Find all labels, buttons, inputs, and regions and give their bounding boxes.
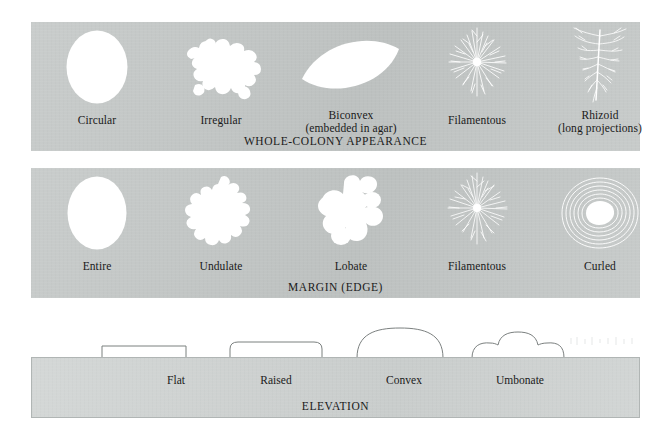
cell-curled: Curled <box>537 168 663 298</box>
shape-convex-profile <box>355 326 445 359</box>
cell-entire: Entire <box>37 168 157 298</box>
caption-rhizoid: Rhizoid (long projections) <box>537 109 663 135</box>
panel-title-margin-edge: MARGIN (EDGE) <box>31 281 640 293</box>
caption-convex: Convex <box>357 374 451 386</box>
panel-title-whole-colony-appearance: WHOLE-COLONY APPEARANCE <box>31 135 640 147</box>
cell-irregular: Irregular <box>161 22 281 151</box>
caption-curled: Curled <box>537 260 663 273</box>
shape-entire <box>37 174 157 252</box>
cell-biconvex: Biconvex (embedded in agar) <box>285 22 417 151</box>
print-artifact <box>568 334 640 348</box>
shape-circular <box>37 28 157 106</box>
caption-circular: Circular <box>37 114 157 127</box>
shape-filamentous <box>417 24 537 106</box>
cell-filamentous-margin: Filamentous <box>417 168 537 298</box>
caption-undulate: Undulate <box>161 260 281 273</box>
shape-filamentous <box>417 170 537 252</box>
caption-biconvex: Biconvex (embedded in agar) <box>285 109 417 135</box>
cell-circular: Circular <box>37 22 157 151</box>
shape-biconvex <box>285 28 417 106</box>
panel-margin-edge: Entire Undulate Lobate <box>31 168 640 298</box>
cell-rhizoid: Rhizoid (long projections) <box>537 22 663 151</box>
caption-flat: Flat <box>136 374 216 386</box>
caption-lobate: Lobate <box>285 260 417 273</box>
panel-whole-colony-appearance: Circular Irregular Biconvex (embedded <box>31 22 640 151</box>
cell-lobate: Lobate <box>285 168 417 298</box>
shape-irregular <box>161 28 281 106</box>
caption-raised: Raised <box>230 374 322 386</box>
caption-umbonate: Umbonate <box>472 374 568 386</box>
cell-filamentous-appearance: Filamentous <box>417 22 537 151</box>
caption-entire: Entire <box>37 260 157 273</box>
shape-rhizoid <box>537 24 663 106</box>
colony-morphology-figure: Circular Irregular Biconvex (embedded <box>0 0 667 447</box>
caption-irregular: Irregular <box>161 114 281 127</box>
caption-filamentous-appearance: Filamentous <box>417 114 537 127</box>
shape-umbonate-profile <box>470 330 566 359</box>
caption-filamentous-margin: Filamentous <box>417 260 537 273</box>
shape-lobate <box>285 174 417 252</box>
shape-curled <box>537 174 663 252</box>
shape-undulate <box>161 174 281 252</box>
cell-undulate: Undulate <box>161 168 281 298</box>
panel-title-elevation: ELEVATION <box>32 400 639 412</box>
panel-elevation: Flat Raised Convex Umbonate ELEVATION <box>31 357 640 418</box>
